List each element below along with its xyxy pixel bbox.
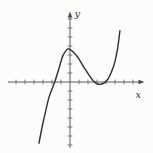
y-axis-arrow — [68, 12, 73, 18]
function-graph-figure: x y — [0, 0, 153, 153]
function-curve — [39, 31, 120, 144]
y-axis-label: y — [74, 8, 81, 19]
x-axis-label: x — [136, 89, 142, 100]
x-axis-arrow — [139, 80, 145, 85]
plot-svg: x y — [0, 0, 153, 153]
